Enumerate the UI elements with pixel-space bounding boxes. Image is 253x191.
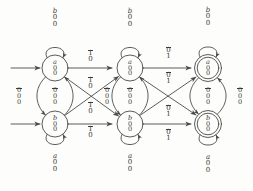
vertical-arc-label-col1: 0 0 0 — [49, 88, 61, 106]
transition-label-q11-q20: 0 1 — [163, 105, 174, 118]
self-loop-label-q10: b 0 0 — [123, 8, 137, 27]
self-loop-label-q01: a 0 0 — [48, 153, 62, 172]
state-label-q20: a 0 0 — [201, 60, 215, 77]
self-loop-q20 — [199, 47, 217, 57]
self-loop-q11 — [121, 135, 139, 145]
transition-label-q00-q11: 1 0 — [85, 77, 96, 90]
self-loop-q10 — [121, 47, 139, 57]
vertical-arc-up-col2 — [140, 77, 149, 115]
state-label-q21: b 0 0 — [201, 116, 215, 133]
state-label-q01: b 0 0 — [48, 116, 62, 133]
self-loop-q01 — [46, 135, 64, 145]
vertical-arc-label-col2: 0 0 0 — [124, 88, 136, 106]
transition-label-q11-q21: 0 1 — [163, 129, 174, 142]
state-label-q00: a 0 0 — [48, 60, 62, 77]
automaton-diagram: a 0 0 b 0 0 a 0 0 b 0 0 a 0 0 b 0 0 b 0 … — [0, 0, 253, 191]
state-label-q11: b 0 0 — [123, 116, 137, 133]
transition-label-q10-q20: 0 1 — [163, 47, 174, 60]
state-label-q10: a 0 0 — [123, 60, 137, 77]
transition-label-q00-q10: 1 0 — [85, 50, 96, 63]
self-loop-label-q21: a 0 0 — [201, 154, 215, 173]
transition-label-q01-q10: 1 0 — [85, 102, 96, 115]
transition-label-q01-q11: 1 0 — [85, 126, 96, 139]
vertical-arc-label-col3: 0 0 0 — [202, 88, 214, 106]
side-label-left-col2: 0 0 0 — [101, 88, 113, 106]
vertical-arc-up-col1 — [65, 77, 74, 115]
side-label-right-col3: 0 0 0 — [234, 88, 246, 106]
vertical-arc-down-col2 — [112, 77, 121, 115]
side-label-left-col1: 0 0 0 — [13, 88, 25, 106]
self-loop-q00 — [46, 47, 64, 57]
vertical-arc-down-col3 — [190, 78, 199, 114]
vertical-arc-down-col1 — [37, 77, 46, 115]
vertical-arc-up-col3 — [218, 78, 227, 114]
self-loop-label-q20: b 0 0 — [201, 7, 215, 26]
self-loop-label-q00: b 0 0 — [48, 8, 62, 27]
transition-label-q10-q21: 0 1 — [163, 72, 174, 85]
self-loop-label-q11: a 0 0 — [123, 153, 137, 172]
self-loop-q21 — [199, 135, 217, 145]
